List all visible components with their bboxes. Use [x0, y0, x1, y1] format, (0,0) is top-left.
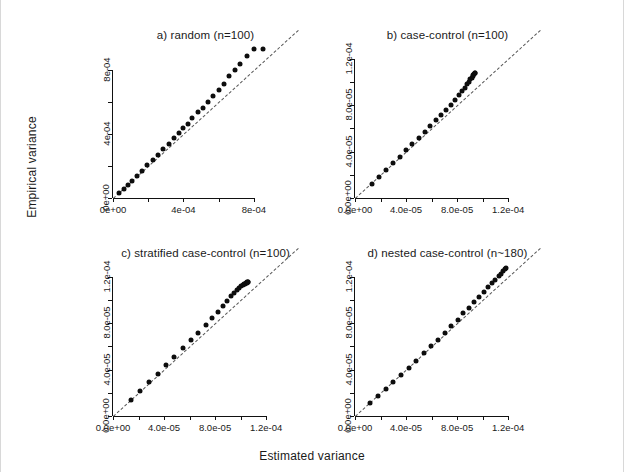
data-point: [421, 351, 426, 356]
panel-c: c) stratified case-control (n=100) 0.0e+…: [113, 248, 298, 416]
data-point: [455, 317, 460, 322]
panel-b-plot: 0.0e+004.0e-058.0e-051.2e-040.0e+004.0e-…: [355, 30, 540, 198]
data-point: [147, 380, 152, 385]
y-tick-label: 8.0e-05: [343, 307, 354, 339]
x-tick-minor: [483, 416, 484, 420]
data-point: [121, 187, 126, 192]
y-tick-label: 0.0e+00: [101, 398, 112, 433]
y-axis-line: [354, 59, 355, 198]
data-point: [486, 285, 491, 290]
data-point: [188, 338, 193, 343]
y-tick-label: 8.0e-05: [101, 307, 112, 339]
y-axis-line: [354, 277, 355, 416]
y-tick-label: 0.0e+00: [343, 398, 354, 433]
data-point: [155, 152, 160, 157]
y-tick-minor: [108, 300, 112, 301]
data-point: [181, 126, 186, 131]
x-tick: [508, 416, 509, 420]
data-point: [190, 116, 195, 121]
figure-y-axis-label: Empirical variance: [25, 87, 39, 247]
data-point: [166, 141, 171, 146]
data-point: [232, 68, 237, 73]
data-point: [125, 183, 130, 188]
data-point: [227, 74, 232, 79]
y-tick-minor: [350, 128, 354, 129]
panel-a-plot: 0e+004e-048e-040e+004e-048e-04: [113, 30, 298, 198]
y-tick-minor: [108, 166, 112, 167]
data-point: [260, 47, 265, 52]
data-point: [195, 110, 200, 115]
x-tick-label: 1.2e-04: [492, 422, 524, 433]
x-tick-minor: [381, 416, 382, 420]
data-point: [200, 105, 205, 110]
x-tick: [164, 416, 165, 420]
x-tick: [457, 416, 458, 420]
data-point: [222, 81, 227, 86]
data-point: [461, 311, 466, 316]
panel-a: a) random (n=100) 0e+004e-048e-040e+004e…: [113, 30, 298, 198]
data-point: [448, 102, 453, 107]
y-tick-minor: [108, 393, 112, 394]
data-point: [398, 372, 403, 377]
data-point: [128, 398, 133, 403]
data-point: [180, 346, 185, 351]
data-point: [246, 279, 251, 284]
x-tick: [406, 198, 407, 202]
reference-line: [355, 248, 541, 417]
data-point: [155, 371, 160, 376]
data-point: [428, 344, 433, 349]
y-tick-label: 8e-04: [101, 57, 112, 81]
panel-d-plot: 0.0e+004.0e-058.0e-051.2e-040.0e+004.0e-…: [355, 248, 540, 416]
x-tick-minor: [139, 416, 140, 420]
x-tick-label: 8.0e-05: [441, 422, 473, 433]
data-point: [504, 265, 509, 270]
data-point: [383, 386, 388, 391]
data-point: [477, 294, 482, 299]
data-point: [453, 98, 458, 103]
x-tick-label: 4e-04: [171, 204, 195, 215]
y-tick-minor: [350, 346, 354, 347]
data-point: [140, 168, 145, 173]
data-point: [177, 131, 182, 136]
x-tick-label: 4.0e-05: [390, 204, 422, 215]
data-point: [215, 309, 220, 314]
data-point: [161, 147, 166, 152]
panel-c-plot: 0.0e+004.0e-058.0e-051.2e-040.0e+004.0e-…: [113, 248, 298, 416]
x-tick-minor: [432, 198, 433, 202]
data-point: [185, 121, 190, 126]
data-point: [163, 363, 168, 368]
x-tick-minor: [148, 198, 149, 202]
data-point: [377, 175, 382, 180]
data-point: [442, 330, 447, 335]
x-tick: [508, 198, 509, 202]
data-point: [422, 129, 427, 134]
x-tick: [406, 416, 407, 420]
y-tick-label: 1.2e-04: [343, 260, 354, 292]
panel-d: d) nested case-control (n~180) 0.0e+004.…: [355, 248, 540, 416]
data-point: [117, 191, 122, 196]
y-tick-label: 8.0e-05: [343, 89, 354, 121]
x-tick-minor: [190, 416, 191, 420]
y-tick-minor: [108, 346, 112, 347]
y-tick-label: 4e-04: [101, 121, 112, 145]
data-point: [172, 354, 177, 359]
data-point: [196, 330, 201, 335]
x-tick-minor: [432, 416, 433, 420]
data-point: [206, 100, 211, 105]
data-point: [375, 393, 380, 398]
data-point: [391, 161, 396, 166]
data-point: [404, 148, 409, 153]
data-point: [428, 124, 433, 129]
y-tick-label: 0e+00: [101, 184, 112, 211]
x-tick: [215, 416, 216, 420]
data-point: [145, 163, 150, 168]
data-point: [434, 118, 439, 123]
data-point: [435, 337, 440, 342]
x-tick-label: 8e-04: [242, 204, 266, 215]
data-point: [216, 88, 221, 93]
x-tick: [254, 198, 255, 202]
data-point: [391, 379, 396, 384]
x-tick-minor: [381, 198, 382, 202]
x-tick: [266, 416, 267, 420]
y-tick-label: 4.0e-05: [343, 353, 354, 385]
